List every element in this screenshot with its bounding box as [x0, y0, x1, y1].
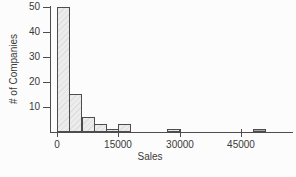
- y-tick: [43, 7, 51, 8]
- y-tick: [43, 32, 51, 33]
- y-tick: [43, 57, 51, 58]
- histogram-bar: [118, 124, 131, 132]
- y-tick-label: 30: [18, 51, 40, 63]
- y-tick: [43, 107, 51, 108]
- y-axis-line: [50, 6, 51, 133]
- x-axis-line: [50, 132, 293, 133]
- x-tick: [118, 129, 119, 137]
- y-tick-label: 40: [18, 26, 40, 38]
- y-axis-title: # of Companies: [8, 34, 19, 104]
- y-tick: [43, 82, 51, 83]
- x-axis-title: Sales: [100, 151, 200, 162]
- x-tick-label: 15000: [98, 139, 138, 151]
- x-tick-label: 45000: [221, 139, 261, 151]
- x-tick: [180, 129, 181, 137]
- y-tick-label: 10: [18, 101, 40, 113]
- x-tick-label: 30000: [160, 139, 200, 151]
- histogram-bar: [69, 94, 82, 132]
- x-tick-label: 0: [37, 139, 77, 151]
- y-tick-label: 20: [18, 76, 40, 88]
- histogram-figure: # of Companies 0150003000045000102030405…: [0, 0, 296, 177]
- x-tick: [241, 129, 242, 137]
- x-tick: [57, 129, 58, 137]
- y-tick-label: 50: [18, 1, 40, 13]
